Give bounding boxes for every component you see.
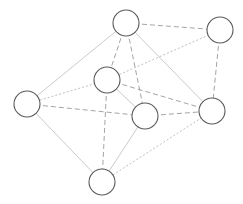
edge-middle-upper-bottom: [102, 80, 107, 182]
node-bottom: [89, 169, 115, 195]
node-top: [113, 10, 139, 36]
edge-top-right-top: [126, 23, 220, 30]
edge-left-bottom: [27, 104, 102, 182]
node-middle-upper: [94, 67, 120, 93]
node-right-top: [207, 17, 233, 43]
edge-right-top-middle-upper: [107, 30, 220, 80]
nodes-layer: [14, 10, 233, 195]
node-right-middle: [199, 98, 225, 124]
edges-layer: [27, 23, 220, 182]
node-lower-middle: [132, 103, 158, 129]
edge-top-lower-middle: [126, 23, 145, 116]
edge-left-lower-middle: [27, 104, 145, 116]
edge-top-right-middle: [126, 23, 212, 111]
graph-canvas: [0, 0, 243, 204]
node-left: [14, 91, 40, 117]
